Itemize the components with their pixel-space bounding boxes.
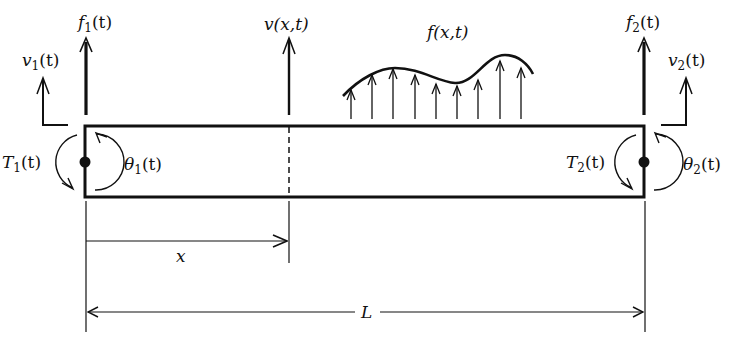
fxt-label: f(x,t) [425, 22, 468, 42]
v2-label: v2(t) [668, 50, 705, 73]
theta2-rotation-arrow [654, 133, 683, 190]
right-node [639, 157, 650, 168]
beam [85, 126, 644, 197]
f2-label: f2(t) [624, 12, 660, 35]
T1-moment-arrow [56, 135, 77, 189]
f2-force-arrow [638, 38, 650, 115]
L-label: L [360, 302, 372, 322]
theta2-label: θ2(t) [683, 154, 721, 177]
left-node [80, 157, 91, 168]
v1-label: v1(t) [22, 50, 59, 73]
T2-label: T2(t) [566, 152, 605, 175]
v2-displacement-arrow [661, 78, 692, 125]
f1-label: f1(t) [76, 12, 112, 35]
theta1-rotation-arrow [95, 133, 124, 190]
beam-diagram: f1(t) v1(t) T1(t) θ1(t) f2(t) v2(t) T2(t… [0, 0, 729, 338]
theta1-label: θ1(t) [124, 154, 162, 177]
T2-moment-arrow [615, 135, 636, 189]
vxt-label: v(x,t) [264, 14, 309, 34]
x-label: x [176, 246, 186, 266]
v1-displacement-arrow [37, 78, 68, 125]
distributed-load-arrows [347, 61, 525, 119]
f1-force-arrow [80, 38, 92, 115]
T1-label: T1(t) [2, 152, 41, 175]
vxt-displacement-arrow [283, 38, 295, 115]
